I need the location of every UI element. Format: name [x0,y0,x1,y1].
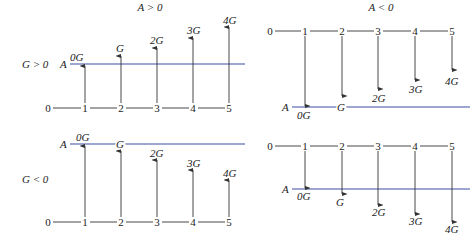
arrow-value-label: G [116,138,124,150]
period-label: 2 [118,102,124,114]
period-label: 0 [45,216,51,228]
arrow-value-label: 3G [186,24,201,36]
period-label: 2 [339,140,345,152]
column-header-a-negative: A < 0 [368,1,394,13]
reference-a-label: A [281,183,289,195]
arrow-value-label: 4G [445,223,459,235]
period-label: 1 [82,216,88,228]
period-label: 3 [375,140,381,152]
cash-flow-gradient-diagram: A > 0 A < 0 G > 0 G < 0 012345A0GG2G3G4G… [0,0,473,241]
arrow-value-label: 2G [372,206,386,218]
period-label: 5 [449,140,455,152]
period-label: 0 [45,102,51,114]
arrow-value-label: 4G [223,14,237,26]
period-label: 3 [154,102,160,114]
arrow-value-label: 0G [297,109,311,121]
period-label: 5 [449,25,455,37]
arrow-value-label: 0G [70,51,84,63]
period-label: 4 [412,25,418,37]
panel-top-right: 012345A0GG2G3G4G [267,25,470,121]
arrow-value-label: 2G [150,34,164,46]
period-label: 3 [375,25,381,37]
period-label: 1 [302,140,308,152]
reference-a-label: A [281,101,289,113]
period-label: 1 [302,25,308,37]
arrow-value-label: 2G [150,147,164,159]
period-label: 5 [226,216,232,228]
panel-bottom-left: 012345A0GG2G3G4G [45,131,245,228]
reference-a-label: A [59,58,67,70]
period-label: 3 [154,216,160,228]
arrow-value-label: 4G [223,167,237,179]
period-label: 2 [118,216,124,228]
row-header-g-negative: G < 0 [22,173,49,185]
arrow-value-label: 0G [76,131,90,143]
arrow-value-label: 2G [372,92,386,104]
column-header-a-positive: A > 0 [137,1,163,13]
arrow-value-label: 3G [408,215,423,227]
arrow-value-label: 3G [186,157,201,169]
period-label: 1 [82,102,88,114]
reference-a-label: A [59,138,67,150]
period-label: 2 [339,25,345,37]
period-label: 4 [190,216,196,228]
arrow-value-label: G [337,101,345,113]
arrow-value-label: 0G [297,190,311,202]
period-label: 4 [412,140,418,152]
arrow-value-label: G [116,42,124,54]
panel-bottom-right: 012345A0GG2G3G4G [267,140,470,235]
period-label: 0 [267,25,273,37]
arrow-value-label: 4G [445,75,459,87]
period-label: 0 [267,140,273,152]
panel-top-left: 012345A0GG2G3G4G [45,14,245,114]
arrow-value-label: 3G [408,83,423,95]
period-label: 5 [226,102,232,114]
arrow-value-label: G [336,196,344,208]
row-header-g-positive: G > 0 [22,58,49,70]
period-label: 4 [190,102,196,114]
